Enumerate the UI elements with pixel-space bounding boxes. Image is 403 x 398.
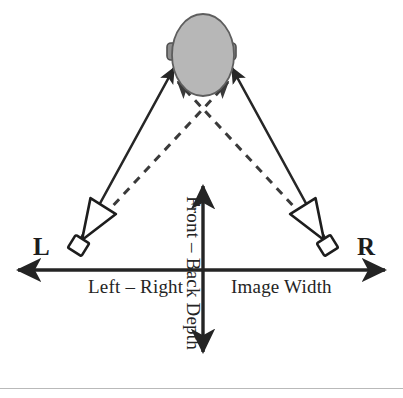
horizontal-axis-label-right: Image Width [231,277,332,296]
vertical-axis-label: Front – Back Depth [184,196,203,350]
head-icon [172,14,234,96]
right-speaker-label: R [357,234,375,259]
left-speaker-label: L [33,234,50,259]
bottom-divider [0,388,403,389]
right-speaker-icon [290,198,344,260]
left-speaker-icon [62,198,116,260]
stereo-imaging-diagram: L R Left – Right Image Width Front – Bac… [0,0,403,398]
listener-head [167,14,236,96]
horizontal-axis-label-left: Left – Right [88,277,183,296]
